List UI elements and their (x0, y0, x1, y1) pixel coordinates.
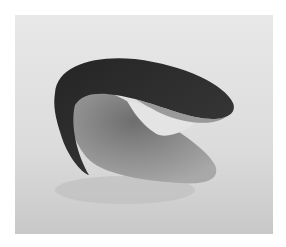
photograph (15, 15, 273, 234)
sculpture-image (15, 15, 273, 234)
